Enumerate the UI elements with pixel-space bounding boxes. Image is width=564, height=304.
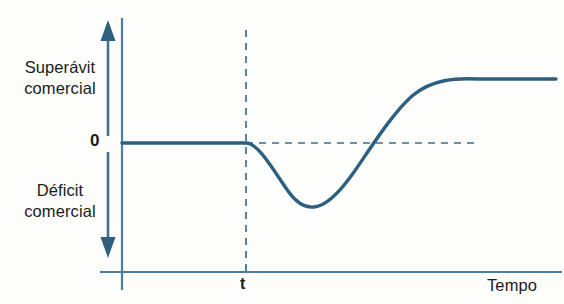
chart-canvas	[0, 0, 564, 304]
y-axis-deficit-label: Déficit comercial	[14, 180, 106, 222]
y-axis-origin-label: 0	[90, 131, 100, 151]
j-curve-chart: Superávit comercial Déficit comercial 0 …	[0, 0, 564, 304]
x-axis-title: Tempo	[487, 276, 537, 295]
x-axis-event-label: t	[240, 275, 245, 293]
deficit-label-line1: Déficit	[14, 180, 106, 201]
surplus-label-line2: comercial	[14, 78, 106, 99]
deficit-label-line2: comercial	[14, 201, 106, 222]
surplus-label-line1: Superávit	[14, 57, 106, 78]
y-axis-surplus-label: Superávit comercial	[14, 57, 106, 99]
